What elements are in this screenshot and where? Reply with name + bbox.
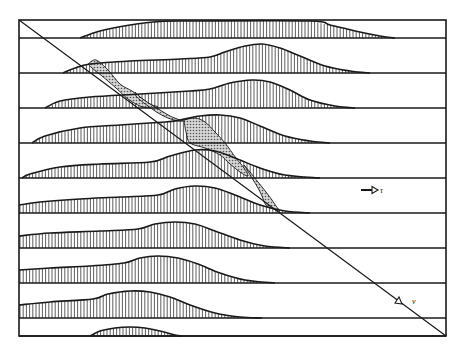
profile-curve-3 [32, 115, 330, 143]
nu-arrow-icon [395, 297, 402, 304]
stippled-region-2 [184, 118, 248, 176]
nu-label: ν [412, 297, 416, 306]
profile-curve-7 [19, 256, 275, 283]
diagram-canvas: τ ν [0, 0, 465, 354]
tau-label: τ [380, 186, 384, 195]
stippled-overlap-regions [88, 60, 280, 211]
profile-curve-4 [22, 150, 320, 178]
tau-arrow-icon [361, 187, 378, 194]
layered-profile-diagram: τ ν [0, 0, 465, 354]
